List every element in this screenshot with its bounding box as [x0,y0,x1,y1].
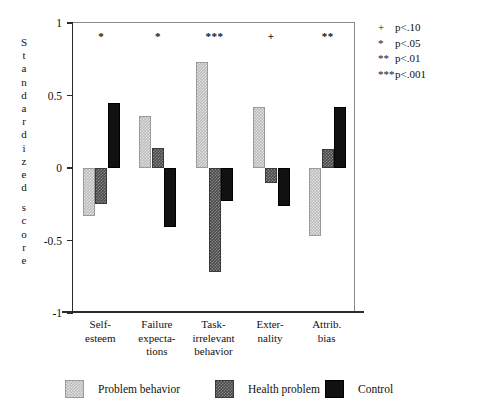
y-axis-tick: -0.5 [67,240,73,241]
significance-marker: * [98,30,104,42]
y-axis-title-char: t [16,49,32,62]
x-axis-tick-label-line: Exter- [239,318,301,332]
legend-swatch [325,380,344,398]
significance-legend-symbol: ** [378,51,395,67]
y-axis-title-char: S [16,36,32,49]
chart-figure: Standardizedscore 10.50-0.5-1*****+** Se… [0,0,484,420]
legend-label: Control [358,383,393,395]
x-axis-tick-label: Task-irrelevantbehavior [183,318,245,359]
bar [221,168,233,201]
y-axis-title-char: e [16,254,32,267]
y-axis-title-char: d [16,128,32,141]
y-axis-title-char: a [16,102,32,115]
y-axis-tick-label: 0 [56,162,62,174]
significance-legend-text: p<.01 [395,52,420,64]
significance-legend-row: ***p<.001 [378,67,426,83]
plot-area: 10.50-0.5-1*****+** [72,22,355,312]
x-axis-tick-label: Self-esteem [69,318,131,345]
bar [108,103,120,168]
y-axis-tick: 1 [67,22,73,23]
x-axis-line [62,311,364,313]
significance-legend-text: p<.05 [395,37,420,49]
significance-legend-row: +p<.10 [378,20,426,36]
x-axis-tick-label: Failureexpecta-tions [126,318,188,359]
bar [164,168,176,227]
significance-marker: + [268,30,275,42]
x-axis-tick-label-line: expecta- [126,332,188,346]
y-axis-title: Standardizedscore [16,36,32,267]
x-axis-tick-label: Attrib.bias [296,318,358,345]
y-axis-tick: 0.5 [67,95,73,96]
y-axis-title-char: r [16,241,32,254]
legend-swatch [65,380,84,398]
significance-legend-symbol: + [378,20,395,36]
x-axis-tick-label-line: tions [126,345,188,359]
y-axis-title-char: i [16,142,32,155]
bar [83,168,95,216]
legend-item[interactable]: Control [325,378,393,400]
bar [139,116,151,168]
x-axis-tick-label-line: Task- [183,318,245,332]
legend-item[interactable]: Problem behavior [65,378,180,400]
x-axis-tick-label-line: Attrib. [296,318,358,332]
bar [309,168,321,236]
x-axis-tick-label-line: Self- [69,318,131,332]
legend-swatch [215,380,234,398]
x-axis-tick-label-line: esteem [69,332,131,346]
significance-marker: ** [322,30,334,42]
y-axis-title-char: n [16,76,32,89]
legend-label: Problem behavior [98,383,180,395]
y-axis-title-char: o [16,228,32,241]
y-axis-title-char: c [16,214,32,227]
y-axis-title-char: a [16,62,32,75]
bar [322,149,334,168]
bar [278,168,290,206]
y-axis-title-char: z [16,155,32,168]
y-axis-tick-label: 1 [56,17,62,29]
bar [209,168,221,272]
significance-legend-text: p<.10 [395,21,420,33]
bar [152,148,164,168]
y-axis-title-char: e [16,168,32,181]
significance-legend-text: p<.001 [395,68,426,80]
series-legend: Problem behaviorHealth problemControl [0,378,484,404]
bar [253,107,265,168]
y-axis-title-char: d [16,181,32,194]
legend-item[interactable]: Health problem [215,378,320,400]
significance-marker: *** [206,30,224,42]
significance-legend-row: **p<.01 [378,51,426,67]
y-axis-tick-label: -1 [52,307,62,319]
x-axis-tick-label-line: behavior [183,345,245,359]
y-axis-tick-label: 0.5 [48,90,62,102]
bar [265,168,277,183]
x-axis-tick-label: Exter-nality [239,318,301,345]
bar [334,107,346,168]
x-axis-tick-label-line: bias [296,332,358,346]
x-axis-tick-label-line: nality [239,332,301,346]
significance-legend-symbol: * [378,36,395,52]
y-axis-tick-label: -0.5 [44,235,62,247]
significance-marker: * [155,30,161,42]
y-axis-tick: 0 [67,167,73,168]
significance-legend-symbol: *** [378,67,395,83]
bar [95,168,107,204]
x-axis-tick-label-line: irrelevant [183,332,245,346]
y-axis-title-char: d [16,89,32,102]
x-axis-tick-label-line: Failure [126,318,188,332]
y-axis-title-char: r [16,115,32,128]
y-axis-title-gap [16,194,32,201]
legend-label: Health problem [248,383,320,395]
y-axis-title-char: s [16,201,32,214]
significance-legend-row: *p<.05 [378,36,426,52]
bar [196,62,208,168]
significance-legend: +p<.10*p<.05**p<.01***p<.001 [378,20,426,82]
